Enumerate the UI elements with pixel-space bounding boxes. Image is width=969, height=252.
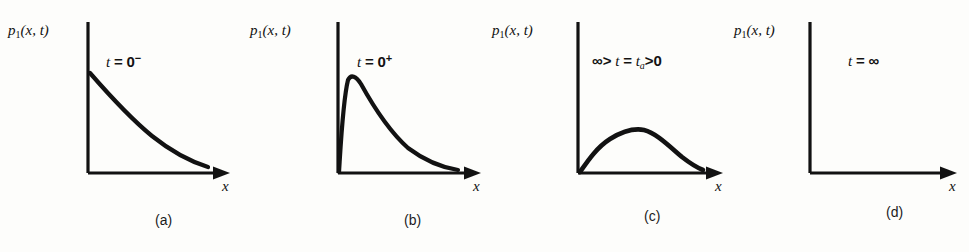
panel-d: p1(x, t) t = ∞ x (d) — [726, 0, 968, 252]
data-curve-peak-decay — [339, 77, 458, 172]
y-axis-label-args: (x, t) — [263, 22, 291, 38]
panel-c-annotation: ∞> t = ta>0 — [592, 52, 662, 71]
figure-container: p1(x, t) t = 0− x (a) p1(x, t) t = 0+ x … — [0, 0, 969, 252]
y-axis-label-p: p — [8, 22, 16, 38]
x-axis-label: x — [222, 178, 229, 195]
panel-a-annotation: t = 0− — [106, 52, 141, 71]
y-axis-label: p1(x, t) — [492, 22, 533, 40]
data-curve-hump — [580, 129, 703, 172]
y-axis-label-p: p — [492, 22, 500, 38]
panel-caption: (c) — [644, 208, 660, 224]
y-axis-label-args: (x, t) — [21, 22, 49, 38]
data-curve-decay — [90, 73, 208, 167]
panel-a: p1(x, t) t = 0− x (a) — [0, 0, 242, 252]
x-axis-label: x — [715, 178, 722, 195]
x-axis-label: x — [473, 178, 480, 195]
y-axis-label: p1(x, t) — [8, 22, 49, 40]
panel-b-annotation: t = 0+ — [357, 52, 392, 71]
x-axis-label: x — [949, 178, 956, 195]
panel-caption: (b) — [404, 212, 421, 228]
y-axis-label-p: p — [734, 22, 742, 38]
y-axis-label: p1(x, t) — [734, 22, 775, 40]
y-axis-label-p: p — [250, 22, 258, 38]
panel-caption: (d) — [886, 204, 903, 220]
panel-b: p1(x, t) t = 0+ x (b) — [242, 0, 484, 252]
panel-d-annotation: t = ∞ — [848, 52, 879, 70]
panel-c: p1(x, t) ∞> t = ta>0 x (c) — [484, 0, 726, 252]
y-axis-label-args: (x, t) — [505, 22, 533, 38]
y-axis-label: p1(x, t) — [250, 22, 291, 40]
panel-caption: (a) — [155, 212, 172, 228]
y-axis-label-args: (x, t) — [747, 22, 775, 38]
